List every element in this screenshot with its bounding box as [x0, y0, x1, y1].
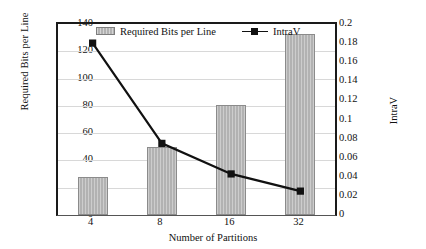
- legend-label-bits: Required Bits per Line: [120, 26, 216, 37]
- x-tick-label: 16: [199, 216, 259, 227]
- legend-entry-bits: Required Bits per Line: [96, 26, 216, 37]
- chart-legend: Required Bits per Line IntraV: [96, 22, 300, 40]
- x-tick-label: 4: [61, 216, 121, 227]
- chart-figure: Required Bits per Line IntraV Number of …: [0, 0, 426, 249]
- plot-area: [56, 22, 337, 216]
- y-axis-right-title: IntraV: [388, 71, 399, 151]
- y-tick-label-right: 0.14: [339, 74, 389, 85]
- legend-label-intrav: IntraV: [273, 26, 300, 37]
- line-path: [93, 43, 301, 191]
- y-tick-label-right: 0.08: [339, 131, 389, 142]
- y-tick-label-right: 0.04: [339, 169, 389, 180]
- y-tick-label-right: 0.2: [339, 17, 389, 28]
- line-marker: [89, 40, 96, 47]
- x-axis-title: Number of Partitions: [0, 232, 426, 243]
- y-tick-label-right: 0.06: [339, 150, 389, 161]
- y-tick-label-right: 0.16: [339, 55, 389, 66]
- legend-entry-intrav: IntraV: [242, 26, 300, 37]
- y-tick-label-right: 0.12: [339, 93, 389, 104]
- line-marker-swatch-icon: [242, 27, 268, 36]
- y-tick-label-right: 0.02: [339, 188, 389, 199]
- y-tick-label-right: 0.18: [339, 36, 389, 47]
- line-marker: [158, 140, 165, 147]
- bar-swatch-icon: [96, 27, 115, 35]
- y-tick-label-right: 0.1: [339, 112, 389, 123]
- line-series: [58, 24, 335, 215]
- y-tick-label-right: 0: [339, 208, 389, 219]
- x-tick-label: 8: [130, 216, 190, 227]
- x-tick-label: 32: [268, 216, 328, 227]
- y-axis-left-title: Required Bits per Line: [19, 0, 30, 142]
- line-marker: [228, 170, 235, 177]
- line-marker: [297, 188, 304, 195]
